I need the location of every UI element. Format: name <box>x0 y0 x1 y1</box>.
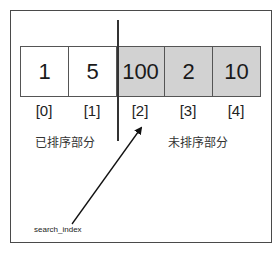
search-index-label: search_index <box>34 225 82 234</box>
pointer-arrow-icon <box>0 0 280 257</box>
